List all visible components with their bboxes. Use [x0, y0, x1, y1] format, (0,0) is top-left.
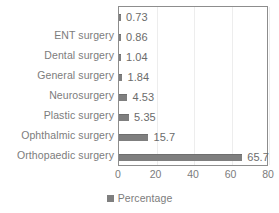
- x-tick-label: 40: [187, 168, 199, 180]
- x-tick-label: 20: [150, 168, 162, 180]
- bar: [119, 134, 148, 141]
- bar: [119, 74, 122, 81]
- bar: [119, 154, 242, 161]
- category-label: Ophthalmic surgery: [21, 129, 114, 141]
- category-label: Plastic surgery: [44, 109, 114, 121]
- category-label: ENT surgery: [54, 29, 114, 41]
- bar-series-percentage: 0.730.861.041.844.535.3515.765.7: [119, 7, 267, 165]
- category-label: General surgery: [37, 69, 114, 81]
- x-tick-label: 80: [262, 168, 274, 180]
- bar-row: 4.53: [119, 87, 267, 107]
- bar-row: 0.73: [119, 7, 267, 27]
- bar-value-label: 5.35: [134, 111, 156, 123]
- bar-row: 15.7: [119, 127, 267, 147]
- bar-value-label: 65.7: [247, 151, 269, 163]
- bar-chart: ENT surgeryDental surgeryGeneral surgery…: [0, 0, 279, 213]
- bar-value-label: 4.53: [132, 91, 154, 103]
- bar-row: 65.7: [119, 147, 267, 167]
- plot-area: 0.730.861.041.844.535.3515.765.7: [118, 6, 268, 166]
- bar-row: 1.04: [119, 47, 267, 67]
- bar-value-label: 1.04: [126, 51, 148, 63]
- bar: [119, 114, 129, 121]
- bar: [119, 54, 121, 61]
- x-tick-label: 60: [225, 168, 237, 180]
- x-axis-ticks: 020406080: [118, 168, 268, 184]
- bar-row: 5.35: [119, 107, 267, 127]
- x-tick-label: 0: [115, 168, 121, 180]
- legend-swatch-percentage: [107, 195, 114, 202]
- category-label: Orthopaedic surgery: [17, 149, 114, 161]
- bar-value-label: 1.84: [127, 71, 149, 83]
- bar-value-label: 15.7: [153, 131, 175, 143]
- bar-row: 1.84: [119, 67, 267, 87]
- bar: [119, 14, 121, 21]
- category-label: Neurosurgery: [49, 89, 114, 101]
- bar-value-label: 0.73: [126, 11, 148, 23]
- gridline-80: [269, 7, 270, 165]
- legend-label-percentage: Percentage: [118, 192, 173, 204]
- bar-row: 0.86: [119, 27, 267, 47]
- category-label: Dental surgery: [44, 49, 114, 61]
- category-axis-labels: ENT surgeryDental surgeryGeneral surgery…: [0, 6, 114, 166]
- chart-legend: Percentage: [0, 192, 279, 204]
- bar-value-label: 0.86: [126, 31, 148, 43]
- bar: [119, 94, 127, 101]
- bar: [119, 34, 121, 41]
